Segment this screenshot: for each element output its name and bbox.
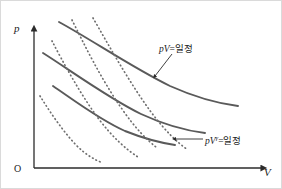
x-axis-label: V [264, 166, 271, 178]
adiabat-label-suffix: =일정 [218, 136, 241, 146]
adiabat-annotation-label: pVγ=일정 [205, 133, 241, 147]
diagram-canvas [0, 0, 282, 189]
isotherm-label-suffix: =일정 [170, 44, 193, 54]
isotherm-annotation-label: pV=일정 [159, 41, 193, 55]
y-axis-label: p [14, 22, 20, 34]
pv-diagram-figure: p V O pV=일정 pVγ=일정 [0, 0, 282, 189]
figure-border [1, 1, 282, 189]
origin-label: O [14, 163, 21, 174]
